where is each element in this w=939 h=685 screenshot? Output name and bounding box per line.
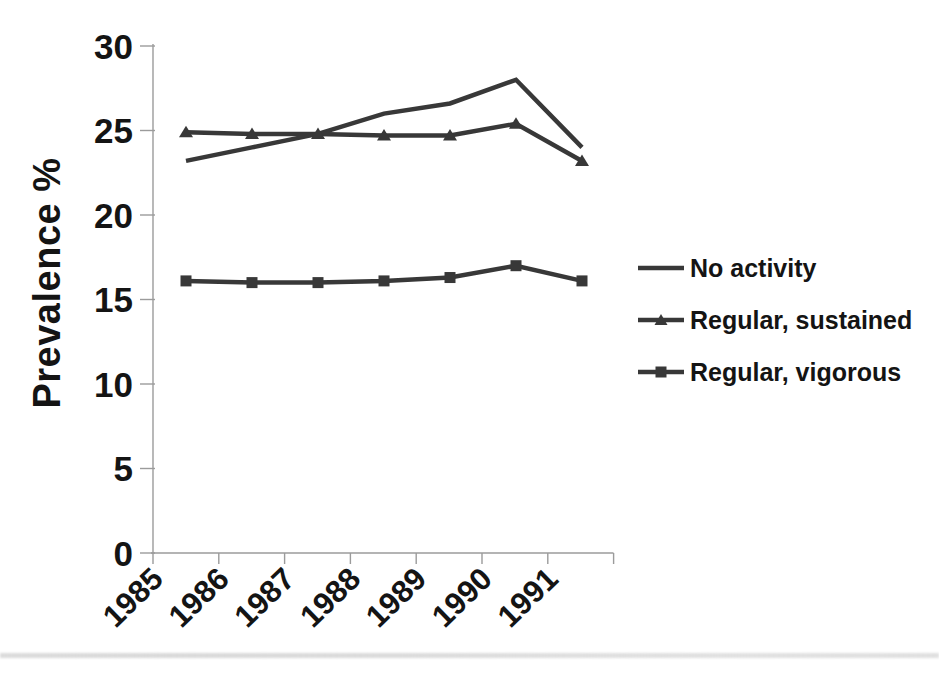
y-tick-label: 10 xyxy=(94,365,133,404)
x-tick-label: 1985 xyxy=(96,561,170,634)
y-tick-label: 25 xyxy=(94,111,133,150)
square-marker-icon xyxy=(577,275,588,286)
y-tick-label: 20 xyxy=(94,196,133,235)
legend-item: No activity xyxy=(636,255,912,281)
square-marker-icon xyxy=(445,272,456,283)
prevalence-trend-figure: Prevalence % 302520151050198519861987198… xyxy=(0,0,939,685)
x-tick-label: 1990 xyxy=(425,561,499,634)
square-marker-icon xyxy=(636,364,686,380)
legend-label: No activity xyxy=(690,254,816,283)
square-marker-icon xyxy=(511,260,522,271)
square-marker-icon xyxy=(181,275,192,286)
x-tick-label: 1991 xyxy=(491,561,565,634)
square-marker-icon xyxy=(247,277,258,288)
legend-item: Regular, sustained xyxy=(636,307,912,333)
scan-artifact-band xyxy=(0,653,939,658)
line-swatch-icon xyxy=(636,260,686,276)
triangle-marker-icon xyxy=(636,312,686,328)
y-tick-label: 15 xyxy=(94,280,133,319)
y-tick-label: 0 xyxy=(114,534,133,573)
no-activity-line xyxy=(186,80,582,161)
legend: No activity Regular, sustained Regular, … xyxy=(636,255,912,385)
legend-label: Regular, sustained xyxy=(690,306,912,335)
x-tick-label: 1987 xyxy=(228,561,302,634)
x-tick-label: 1989 xyxy=(359,561,433,634)
legend-item: Regular, vigorous xyxy=(636,359,912,385)
y-tick-label: 30 xyxy=(94,27,133,66)
square-marker-icon xyxy=(313,277,324,288)
x-tick-label: 1988 xyxy=(293,561,367,634)
x-tick-label: 1986 xyxy=(162,561,236,634)
y-tick-label: 5 xyxy=(114,449,133,488)
legend-label: Regular, vigorous xyxy=(690,358,901,387)
square-marker-icon xyxy=(379,275,390,286)
